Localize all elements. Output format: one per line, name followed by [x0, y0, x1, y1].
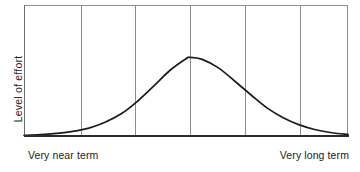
gridline-4 — [245, 5, 246, 136]
x-axis-label-near-term: Very near term — [28, 148, 98, 162]
gridline-2 — [135, 5, 136, 136]
gridline-1 — [81, 5, 82, 136]
gridline-3 — [190, 5, 191, 136]
gridline-5 — [300, 5, 301, 136]
chart-figure: Level of effort Very near term Very long… — [0, 0, 360, 172]
x-axis-label-long-term: Very long term — [280, 148, 349, 162]
x-axis-line — [24, 135, 349, 137]
y-axis-line — [24, 5, 25, 136]
y-axis-label-container: Level of effort — [0, 0, 24, 140]
